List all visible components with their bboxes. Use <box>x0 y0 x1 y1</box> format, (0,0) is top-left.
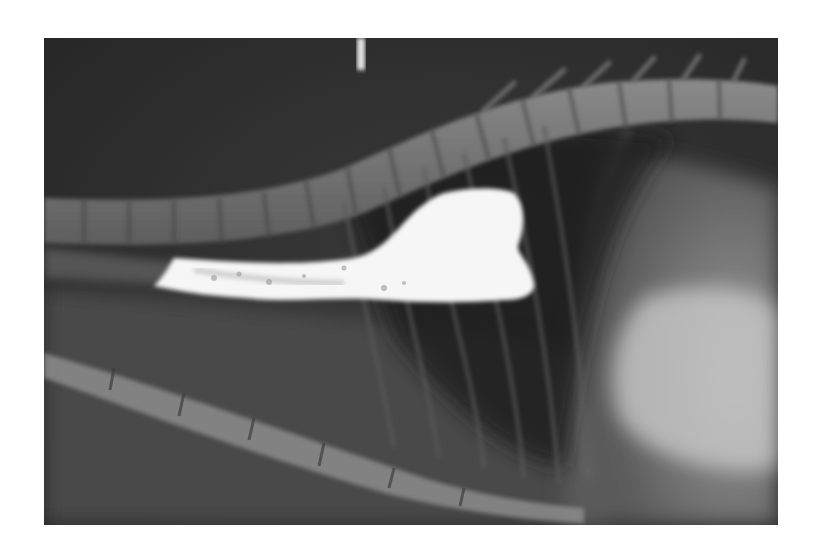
radiograph-svg <box>44 38 778 525</box>
radiograph-image <box>44 38 778 525</box>
